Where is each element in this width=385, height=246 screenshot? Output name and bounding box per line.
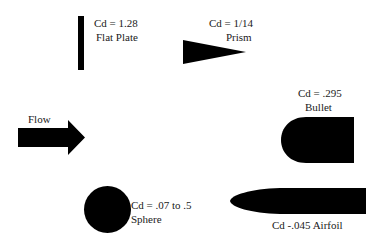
sphere-name-label: Sphere xyxy=(131,213,162,226)
flow-label: Flow xyxy=(28,113,51,126)
flat-plate-shape xyxy=(78,16,84,70)
bullet-cd-label: Cd = .295 xyxy=(298,87,342,100)
flat-plate-name-label: Flat Plate xyxy=(96,31,138,44)
bullet-name-label: Bullet xyxy=(305,101,332,114)
bullet-shape xyxy=(281,117,354,163)
sphere-shape xyxy=(84,186,131,233)
flat-plate-cd-label: Cd = 1.28 xyxy=(94,17,138,30)
drag-shapes-canvas xyxy=(0,0,385,246)
airfoil-cd-label: Cd -.045 Airfoil xyxy=(272,219,343,232)
prism-name-label: Prism xyxy=(226,31,252,44)
prism-cd-label: Cd = 1/14 xyxy=(209,17,253,30)
sphere-cd-label: Cd = .07 to .5 xyxy=(131,199,192,212)
airfoil-shape xyxy=(230,188,366,214)
